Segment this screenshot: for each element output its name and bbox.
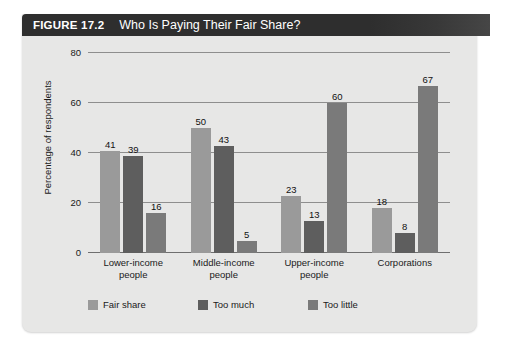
bar[interactable] bbox=[191, 128, 211, 253]
bar-column: 8 bbox=[395, 53, 415, 253]
category-label-line: people bbox=[88, 269, 179, 281]
bar-value-label: 60 bbox=[332, 91, 343, 102]
bar-value-label: 50 bbox=[195, 116, 206, 127]
y-axis-title: Percentage of respondents bbox=[42, 53, 53, 223]
bar-set: 231360 bbox=[269, 53, 360, 253]
figure-number-label: FIGURE 17.2 bbox=[33, 19, 104, 31]
bar-set: 50435 bbox=[179, 53, 270, 253]
category-label: Middle-incomepeople bbox=[179, 257, 270, 281]
category-label-line: Upper-income bbox=[269, 257, 360, 269]
bar-group: 50435 bbox=[179, 53, 270, 253]
bar-group: 231360 bbox=[269, 53, 360, 253]
category-label-line: Lower-income bbox=[88, 257, 179, 269]
bar-set: 413916 bbox=[88, 53, 179, 253]
bar-group: 18867 bbox=[360, 53, 451, 253]
legend-label: Fair share bbox=[103, 299, 146, 310]
bar-column: 43 bbox=[214, 53, 234, 253]
bar-column: 39 bbox=[123, 53, 143, 253]
bar-value-label: 41 bbox=[105, 139, 116, 150]
bar[interactable] bbox=[372, 208, 392, 253]
chart-legend: Fair shareToo muchToo little bbox=[88, 299, 450, 310]
bar-column: 13 bbox=[304, 53, 324, 253]
bar-column: 18 bbox=[372, 53, 392, 253]
bar[interactable] bbox=[395, 233, 415, 253]
y-tick-label-40: 40 bbox=[70, 147, 81, 158]
bar-set: 18867 bbox=[360, 53, 451, 253]
legend-item[interactable]: Fair share bbox=[88, 299, 198, 310]
chart-area: Percentage of respondents 020406080 4139… bbox=[22, 36, 477, 332]
bar-value-label: 39 bbox=[128, 144, 139, 155]
bar-value-label: 5 bbox=[244, 229, 249, 240]
category-label-line: people bbox=[179, 269, 270, 281]
bar[interactable] bbox=[237, 241, 257, 254]
y-tick-label-60: 60 bbox=[70, 97, 81, 108]
legend-swatch-icon bbox=[88, 300, 98, 310]
bar-column: 16 bbox=[146, 53, 166, 253]
bar-column: 60 bbox=[327, 53, 347, 253]
plot-area: 020406080 4139165043523136018867 bbox=[88, 53, 450, 253]
legend-label: Too little bbox=[323, 299, 358, 310]
bar[interactable] bbox=[146, 213, 166, 253]
bar-column: 41 bbox=[100, 53, 120, 253]
bar-value-label: 43 bbox=[218, 134, 229, 145]
y-tick-label-20: 20 bbox=[70, 197, 81, 208]
category-label-line: Corporations bbox=[360, 257, 451, 269]
bar-value-label: 13 bbox=[309, 209, 320, 220]
bar[interactable] bbox=[123, 156, 143, 254]
bar[interactable] bbox=[281, 196, 301, 254]
bar[interactable] bbox=[100, 151, 120, 254]
bar-value-label: 23 bbox=[286, 184, 297, 195]
legend-item[interactable]: Too much bbox=[198, 299, 308, 310]
bar[interactable] bbox=[327, 103, 347, 253]
bar-group: 413916 bbox=[88, 53, 179, 253]
category-label-line: Middle-income bbox=[179, 257, 270, 269]
figure-root: FIGURE 17.2 Who Is Paying Their Fair Sha… bbox=[0, 0, 508, 351]
bar-column: 5 bbox=[237, 53, 257, 253]
figure-title: Who Is Paying Their Fair Share? bbox=[119, 18, 300, 32]
legend-swatch-icon bbox=[308, 300, 318, 310]
bar-value-label: 16 bbox=[151, 201, 162, 212]
legend-label: Too much bbox=[213, 299, 254, 310]
bar-column: 50 bbox=[191, 53, 211, 253]
category-label: Corporations bbox=[360, 257, 451, 281]
bar-groups: 4139165043523136018867 bbox=[88, 53, 450, 253]
y-tick-label-0: 0 bbox=[76, 247, 81, 258]
bar-column: 23 bbox=[281, 53, 301, 253]
bar-column: 67 bbox=[418, 53, 438, 253]
category-axis-labels: Lower-incomepeopleMiddle-incomepeopleUpp… bbox=[88, 257, 450, 281]
figure-title-bar: FIGURE 17.2 Who Is Paying Their Fair Sha… bbox=[22, 14, 490, 36]
y-tick-label-80: 80 bbox=[70, 47, 81, 58]
legend-swatch-icon bbox=[198, 300, 208, 310]
category-label: Lower-incomepeople bbox=[88, 257, 179, 281]
category-label-line: people bbox=[269, 269, 360, 281]
bar[interactable] bbox=[418, 86, 438, 254]
bar-value-label: 67 bbox=[422, 74, 433, 85]
legend-item[interactable]: Too little bbox=[308, 299, 418, 310]
bar-value-label: 8 bbox=[402, 221, 407, 232]
category-label: Upper-incomepeople bbox=[269, 257, 360, 281]
bar[interactable] bbox=[304, 221, 324, 254]
bar-value-label: 18 bbox=[376, 196, 387, 207]
bar[interactable] bbox=[214, 146, 234, 254]
